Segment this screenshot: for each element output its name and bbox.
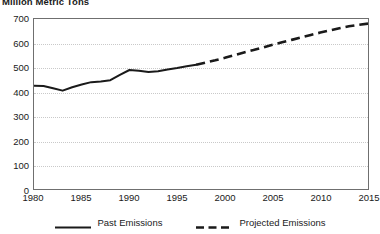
y-axis-labels: 0100200300400500600700 [0,18,29,190]
y-axis-tick-label: 300 [13,111,29,122]
y-axis-tick-label: 100 [13,160,29,171]
legend-item[interactable]: Projected Emissions [196,217,325,228]
y-axis-tick-label: 500 [13,62,29,73]
y-axis-tick-label: 400 [13,86,29,97]
y-axis-tick-label: 700 [13,13,29,24]
series-line-projected-emissions [196,24,368,65]
chart-legend: Past EmissionsProjected Emissions [0,212,380,232]
legend-item[interactable]: Past Emissions [55,217,163,228]
series-line-past-emissions [34,65,196,91]
series-layer [34,19,368,189]
series-svg [34,19,368,189]
x-axis-tick-label: 2000 [214,192,235,203]
x-axis-tick-label: 1995 [166,192,187,203]
chart-title: Million Metric Tons [2,0,89,7]
legend-item-label: Projected Emissions [239,217,325,228]
x-axis-tick-label: 2010 [310,192,331,203]
plot-area [33,18,369,190]
y-axis-tick-label: 600 [13,37,29,48]
emissions-line-chart: Million Metric Tons 01002003004005006007… [0,0,380,234]
x-axis-tick-label: 2005 [262,192,283,203]
legend-line-swatch-dashed [196,218,232,227]
x-axis-labels: 19801985199019952000200520102015 [33,192,369,208]
x-axis-tick-label: 2015 [358,192,379,203]
legend-item-label: Past Emissions [98,217,163,228]
x-axis-tick-label: 1980 [22,192,43,203]
y-axis-tick-label: 200 [13,135,29,146]
legend-line-swatch-solid [55,218,91,227]
x-axis-tick-label: 1990 [118,192,139,203]
x-axis-tick-label: 1985 [70,192,91,203]
